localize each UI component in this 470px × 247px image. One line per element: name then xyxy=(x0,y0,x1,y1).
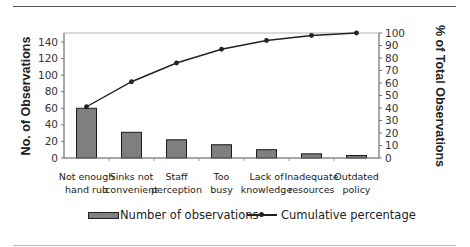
right-tick-label: 0 xyxy=(385,152,392,164)
left-y-axis: 020406080100120140 xyxy=(38,33,64,164)
plot-border xyxy=(64,33,379,158)
category-label: Outdatedpolicy xyxy=(334,171,379,195)
legend: Number of observations Cumulative percen… xyxy=(0,208,470,224)
x-axis: Not enoughhand rubSinks notconvenientSta… xyxy=(59,158,379,195)
category-label: Inadequateresources xyxy=(285,171,339,195)
right-tick-label: 70 xyxy=(385,64,398,76)
category-label: Staffperception xyxy=(151,171,202,195)
bar xyxy=(302,154,322,158)
right-tick-label: 40 xyxy=(385,102,398,114)
bar xyxy=(212,145,232,158)
line-marker xyxy=(309,33,314,38)
left-tick-label: 120 xyxy=(38,52,58,64)
line-marker xyxy=(354,31,359,36)
plot-area xyxy=(64,33,379,158)
left-axis-title: No. of Observations xyxy=(19,37,33,156)
left-tick-label: 100 xyxy=(38,69,58,81)
left-tick-label: 140 xyxy=(38,36,58,48)
line-marker xyxy=(264,38,269,43)
category-label: Toobusy xyxy=(210,171,233,195)
left-tick-label: 80 xyxy=(45,85,58,97)
line-marker-swatch-icon xyxy=(247,214,277,216)
line-marker xyxy=(174,61,179,66)
right-tick-label: 20 xyxy=(385,127,398,139)
left-tick-label: 60 xyxy=(45,102,58,114)
right-tick-label: 30 xyxy=(385,114,398,126)
right-tick-label: 10 xyxy=(385,139,398,151)
bar xyxy=(77,108,97,158)
legend-item-line: Cumulative percentage xyxy=(247,208,416,222)
cumulative-line-series xyxy=(84,31,359,110)
legend-line-label: Cumulative percentage xyxy=(281,208,416,222)
right-tick-label: 50 xyxy=(385,89,398,101)
right-tick-label: 80 xyxy=(385,52,398,64)
bar-swatch-icon xyxy=(88,212,119,219)
line-marker xyxy=(129,79,134,84)
right-tick-label: 90 xyxy=(385,39,398,51)
left-tick-label: 0 xyxy=(51,152,58,164)
bar xyxy=(257,150,277,158)
bar xyxy=(122,132,142,158)
legend-item-bars: Number of observations xyxy=(88,208,259,222)
right-y-axis: 0102030405060708090100 xyxy=(379,27,405,164)
pareto-chart: 020406080100120140 010203040506070809010… xyxy=(0,0,470,205)
cumulative-line xyxy=(87,33,357,107)
bottom-rule xyxy=(13,245,456,246)
line-marker xyxy=(219,47,224,52)
left-tick-label: 40 xyxy=(45,118,58,130)
right-tick-label: 100 xyxy=(385,27,405,39)
bar-series xyxy=(77,108,367,158)
line-marker xyxy=(84,104,89,109)
right-axis-title: % of Total Observations xyxy=(433,25,447,167)
bar xyxy=(167,140,187,158)
right-tick-label: 60 xyxy=(385,77,398,89)
legend-bar-label: Number of observations xyxy=(120,208,259,222)
left-tick-label: 20 xyxy=(45,135,58,147)
